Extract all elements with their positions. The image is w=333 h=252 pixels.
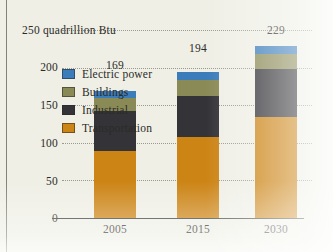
bar-total-label-2015: 194 (168, 42, 228, 54)
legend-swatch-industrial (62, 105, 75, 115)
bar-segment-electric-power-2030 (255, 46, 297, 54)
bar-segment-electric-power-2015 (177, 72, 219, 80)
x-tick-label-2005: 2005 (85, 223, 145, 235)
legend-item-buildings: Buildings (62, 84, 152, 100)
y-axis-tick-labels: 50 100 150 200 0 (8, 30, 58, 218)
y-tick-label-150: 150 (14, 100, 58, 112)
bar-segment-industrial-2015 (177, 96, 219, 137)
bar-segment-buildings-2030 (255, 54, 297, 69)
legend-item-electric-power: Electric power (62, 66, 152, 82)
bar-segment-transportation-2015 (177, 137, 219, 218)
y-tick-label-200: 200 (14, 62, 58, 74)
bar-segment-industrial-2030 (255, 69, 297, 117)
legend-swatch-transportation (62, 123, 75, 133)
legend-swatch-buildings (62, 87, 75, 97)
legend-label-electric-power: Electric power (82, 68, 152, 80)
y-axis-unit-label: 250 quadrillion Btu (22, 24, 116, 36)
legend-item-transportation: Transportation (62, 120, 152, 136)
x-tick-label-2015: 2015 (168, 223, 228, 235)
legend-label-buildings: Buildings (82, 86, 129, 98)
bar-total-label-2030: 229 (246, 24, 306, 36)
legend-swatch-electric-power (62, 69, 75, 79)
chart-figure: 250 quadrillion Btu 50 100 150 200 0 (0, 0, 333, 252)
x-axis-line (52, 218, 304, 219)
bar-segment-buildings-2015 (177, 80, 219, 96)
page-gutter-rule (6, 0, 7, 252)
bar-2030 (255, 46, 297, 218)
y-tick-label-100: 100 (14, 138, 58, 150)
legend-label-industrial: Industrial (82, 104, 128, 116)
bar-2015 (177, 72, 219, 218)
y-tick-label-50: 50 (14, 176, 58, 188)
chart-legend: Electric power Buildings Industrial Tran… (62, 66, 152, 138)
bar-segment-transportation-2030 (255, 117, 297, 218)
bar-segment-transportation-2005 (94, 151, 136, 218)
x-tick-label-2030: 2030 (246, 223, 306, 235)
legend-item-industrial: Industrial (62, 102, 152, 118)
legend-label-transportation: Transportation (82, 122, 152, 134)
